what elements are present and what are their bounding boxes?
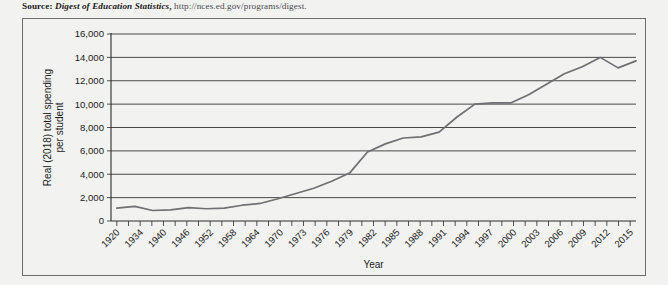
x-axis-title: Year xyxy=(363,259,384,270)
y-tick-label: 16,000 xyxy=(75,28,104,39)
x-tick-label: 2012 xyxy=(589,227,612,250)
x-tick-label: 1997 xyxy=(472,227,495,250)
figure-page: Source: Digest of Education Statistics, … xyxy=(0,0,668,285)
x-tick-label: 1985 xyxy=(379,227,402,250)
x-tick-label: 2006 xyxy=(542,227,565,250)
x-tick-label: 1982 xyxy=(356,227,379,250)
line-chart: 02,0004,0006,0008,00010,00012,00014,0001… xyxy=(23,19,647,277)
x-tick-label: 1952 xyxy=(192,227,215,250)
x-tick-label: 2000 xyxy=(496,227,519,250)
x-tick-group xyxy=(117,221,630,226)
y-tick-label: 4,000 xyxy=(80,169,104,180)
source-publication: Digest of Education Statistics xyxy=(55,1,169,11)
x-tick-label: 1946 xyxy=(169,227,192,250)
x-tick-labels: 1920193419401946195219581964197019731976… xyxy=(99,226,635,249)
y-tick-label: 0 xyxy=(99,215,104,226)
x-tick-label: 1934 xyxy=(122,226,145,249)
x-tick-label: 1976 xyxy=(309,227,332,250)
x-tick-label: 1973 xyxy=(286,227,309,250)
y-tick-label: 12,000 xyxy=(75,75,104,86)
gridlines-group xyxy=(111,34,636,198)
x-tick-label: 2009 xyxy=(566,227,589,250)
x-tick-label: 1958 xyxy=(216,227,239,250)
x-tick-label: 1970 xyxy=(262,227,285,250)
x-tick-label: 1991 xyxy=(426,227,449,250)
y-tick-label: 10,000 xyxy=(75,99,104,110)
y-axis-title: Real (2018) total spendingper student xyxy=(42,69,65,186)
x-tick-label: 2003 xyxy=(519,227,542,250)
y-tick-group: 02,0004,0006,0008,00010,00012,00014,0001… xyxy=(75,28,111,226)
y-tick-label: 14,000 xyxy=(75,52,104,63)
x-tick-label: 1979 xyxy=(332,227,355,250)
x-tick-label: 1964 xyxy=(239,226,262,249)
y-axis-title-line: Real (2018) total spending xyxy=(42,69,53,186)
x-tick-label: 1920 xyxy=(99,227,122,250)
source-label: Source: xyxy=(22,1,53,11)
x-tick-label: 1994 xyxy=(449,226,472,249)
x-tick-label: 1988 xyxy=(402,227,425,250)
y-tick-label: 8,000 xyxy=(80,122,104,133)
source-url: http://nces.ed.gov/programs/digest. xyxy=(174,1,307,11)
source-separator: , xyxy=(169,1,171,11)
y-tick-label: 2,000 xyxy=(80,192,104,203)
source-credit: Source: Digest of Education Statistics, … xyxy=(22,1,307,11)
y-tick-label: 6,000 xyxy=(80,145,104,156)
x-tick-label: 2015 xyxy=(612,227,635,250)
x-tick-label: 1940 xyxy=(146,227,169,250)
y-axis-title-line: per student xyxy=(54,102,65,152)
chart-frame: 02,0004,0006,0008,00010,00012,00014,0001… xyxy=(22,18,646,276)
